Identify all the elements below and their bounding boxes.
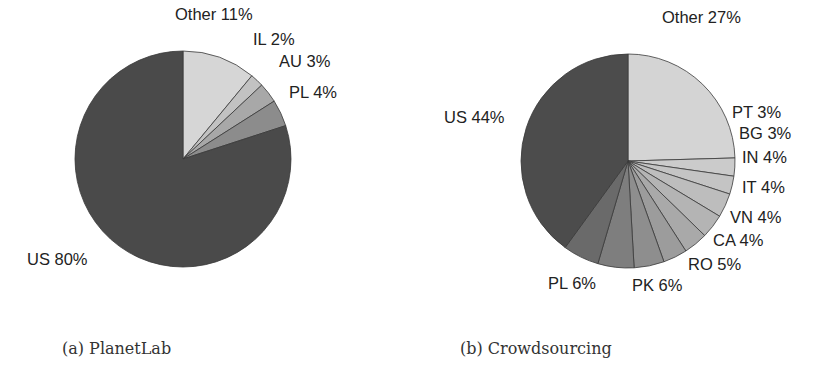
slice-label-in: IN 4% (742, 148, 787, 166)
slice-label-pl: PL 6% (548, 274, 596, 292)
slice-label-au: AU 3% (279, 52, 331, 70)
caption-crowdsourcing: (b) Crowdsourcing (460, 339, 612, 358)
slice-label-us: US 80% (27, 250, 88, 268)
slice-label-ro: RO 5% (688, 255, 742, 273)
caption-planetlab: (a) PlanetLab (62, 339, 171, 358)
pie-chart-crowdsourcing: Other 27%PT 3%BG 3%IN 4%IT 4%VN 4%CA 4%R… (444, 8, 792, 294)
slice-label-vn: VN 4% (730, 208, 782, 226)
slice-label-bg: BG 3% (739, 124, 792, 142)
pie-slice-other (628, 54, 735, 161)
slice-label-ca: CA 4% (713, 231, 764, 249)
slice-label-pk: PK 6% (632, 276, 683, 294)
slice-label-other: Other 11% (175, 5, 253, 23)
slice-label-it: IT 4% (742, 178, 785, 196)
pie-charts-canvas: Other 11%IL 2%AU 3%PL 4%US 80% Other 27%… (0, 0, 821, 386)
slice-label-pt: PT 3% (732, 103, 782, 121)
slice-label-pl: PL 4% (289, 83, 337, 101)
pie-chart-planetlab: Other 11%IL 2%AU 3%PL 4%US 80% (27, 5, 337, 268)
slice-label-us: US 44% (444, 108, 505, 126)
slice-label-il: IL 2% (253, 30, 295, 48)
slice-label-other: Other 27% (662, 8, 741, 26)
figure: Other 11%IL 2%AU 3%PL 4%US 80% Other 27%… (0, 0, 821, 386)
